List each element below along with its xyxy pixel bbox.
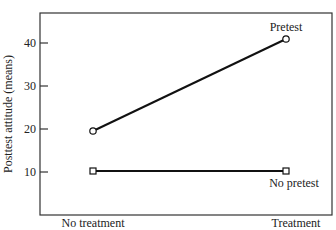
x-label-treatment: Treatment bbox=[272, 216, 322, 230]
tick-label-10: 10 bbox=[24, 165, 36, 179]
pretest-line bbox=[93, 39, 286, 131]
pretest-label: Pretest bbox=[270, 20, 303, 34]
tick-label-20: 20 bbox=[24, 122, 36, 136]
series-no-pretest: No pretest bbox=[90, 168, 319, 190]
circle-marker-icon bbox=[283, 36, 289, 42]
no-pretest-label: No pretest bbox=[269, 176, 319, 190]
chart: 10 20 30 40 Posttest attitude (means) No… bbox=[0, 0, 336, 230]
tick-label-40: 40 bbox=[24, 36, 36, 50]
y-tick-labels: 10 20 30 40 bbox=[24, 36, 36, 179]
series-pretest: Pretest bbox=[90, 20, 303, 134]
square-marker-icon bbox=[283, 168, 289, 174]
square-marker-icon bbox=[90, 168, 96, 174]
y-axis-label: Posttest attitude (means) bbox=[1, 55, 15, 173]
circle-marker-icon bbox=[90, 128, 96, 134]
tick-label-30: 30 bbox=[24, 79, 36, 93]
y-ticks bbox=[40, 43, 48, 172]
x-label-no-treatment: No treatment bbox=[62, 216, 126, 230]
